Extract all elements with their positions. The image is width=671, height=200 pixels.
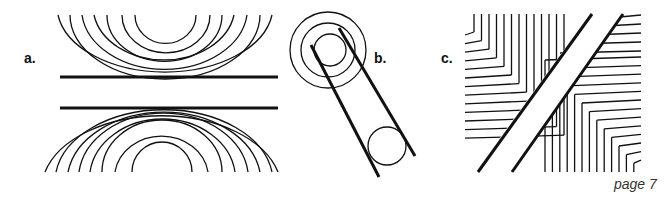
page-number: page 7 bbox=[614, 176, 657, 192]
panel-c bbox=[465, 14, 641, 172]
panel-a-bottom-arcs bbox=[45, 110, 278, 172]
panel-b bbox=[290, 12, 415, 177]
panel-a-label: a. bbox=[24, 50, 36, 66]
illusion-figure bbox=[0, 0, 671, 200]
panel-a bbox=[45, 15, 278, 172]
panel-c-label: c. bbox=[441, 50, 453, 66]
panel-a-top-arcs bbox=[58, 15, 272, 79]
panel-b-label: b. bbox=[374, 50, 386, 66]
